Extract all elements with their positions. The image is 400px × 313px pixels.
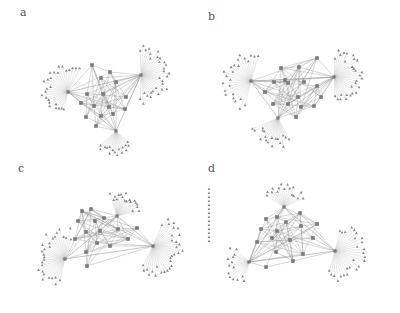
hub-node [115, 214, 118, 217]
leaf-node [229, 275, 232, 278]
leaf-node [225, 75, 228, 78]
leaf-node [42, 273, 45, 276]
leaf-node [71, 67, 74, 70]
leaf-node [208, 215, 211, 218]
core-node [126, 237, 130, 241]
hub-node [151, 244, 154, 247]
leaf-node [361, 241, 364, 244]
core-node [296, 95, 300, 99]
leaf-node [49, 76, 52, 79]
core-node [299, 105, 303, 109]
network-graph-a [0, 0, 200, 156]
core-node [302, 80, 306, 84]
core-node [299, 224, 303, 228]
leaf-node [138, 209, 141, 212]
leaf-node [136, 205, 139, 208]
core-node [135, 226, 139, 230]
leaf-node [330, 273, 333, 276]
leaf-node [292, 186, 295, 189]
core-node [255, 240, 259, 244]
leaf-node [277, 187, 280, 190]
core-node [101, 92, 105, 96]
leaf-node [233, 64, 236, 67]
core-node [123, 107, 127, 111]
leaf-node [339, 275, 342, 278]
core-node [90, 63, 94, 67]
leaf-node [360, 77, 363, 80]
core-node [297, 65, 301, 69]
leaf-node [158, 61, 161, 64]
leaf-node [345, 98, 348, 101]
core-node [99, 114, 103, 118]
leaf-node [343, 51, 346, 54]
leaf-node [162, 70, 165, 73]
leaf-node [354, 237, 357, 240]
leaf-node [121, 195, 124, 198]
leaf-node [238, 54, 241, 57]
panel-label-d: d [208, 162, 215, 175]
leaf-node [43, 248, 46, 251]
leaf-node [286, 183, 289, 186]
leaf-node [291, 193, 294, 196]
core-node [275, 229, 279, 233]
network-graph-c [0, 156, 200, 312]
leaf-node [166, 75, 169, 78]
core-node [259, 227, 263, 231]
leaf-node [118, 148, 121, 151]
leaf-node [78, 67, 81, 70]
leaf-node [237, 58, 240, 61]
leaf-node [177, 227, 180, 230]
leaf-node [355, 232, 358, 235]
leaf-node [155, 87, 158, 90]
leaf-node [208, 211, 211, 214]
leaf-node [125, 149, 128, 152]
leaf-node [58, 228, 61, 231]
leaf-node [175, 246, 178, 249]
leaf-node [353, 228, 356, 231]
leaf-node [270, 191, 273, 194]
hub-node [249, 79, 252, 82]
core-node [80, 209, 84, 213]
core-node [108, 70, 112, 74]
panel-a: a [0, 0, 200, 156]
leaf-node [60, 107, 63, 110]
leaf-node [48, 242, 51, 245]
leaf-node [156, 265, 159, 268]
leaf-node [282, 145, 285, 148]
leaf-node [142, 102, 145, 105]
leaf-node [168, 72, 171, 75]
leaf-node [178, 243, 181, 246]
leaf-node [143, 92, 146, 95]
panel-label-a: a [20, 6, 27, 19]
leaf-node [247, 60, 250, 63]
leaf-node [115, 198, 118, 201]
leaf-node [48, 101, 51, 104]
leaf-node [49, 85, 52, 88]
leaf-node [125, 192, 128, 195]
leaf-node [208, 219, 211, 222]
leaf-node [170, 254, 173, 257]
leaf-node [283, 187, 286, 190]
leaf-node [350, 226, 353, 229]
core-node [315, 84, 319, 88]
core-node [114, 80, 118, 84]
hub-node [114, 129, 117, 132]
leaf-node [126, 140, 129, 143]
core-node [79, 101, 83, 105]
leaf-node [344, 60, 347, 63]
leaf-node [344, 230, 347, 233]
hub-node [332, 75, 335, 78]
leaf-node [284, 136, 287, 139]
leaf-node [271, 187, 274, 190]
leaf-node [230, 66, 233, 69]
leaf-node [65, 236, 68, 239]
leaf-node [54, 283, 57, 286]
leaf-node [238, 107, 241, 110]
leaf-node [357, 265, 360, 268]
leaf-node [351, 65, 354, 68]
leaf-node [257, 54, 260, 57]
leaf-node [265, 139, 268, 142]
leaf-node [157, 50, 160, 53]
leaf-node [339, 98, 342, 101]
leaf-node [224, 93, 227, 96]
